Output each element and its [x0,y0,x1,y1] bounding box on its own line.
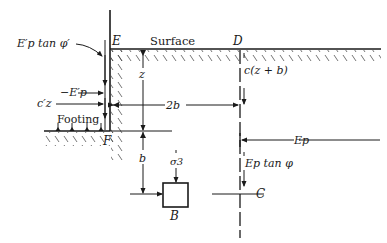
b-arrowhead-top [140,132,146,138]
label-2b: 2b [165,99,180,112]
ep-prime-tan-phi-prime-leader [76,44,102,56]
label-footing: Footing [57,113,99,126]
element-box-B [163,183,188,207]
label-ep-tan-phi: Ep tan φ [244,157,293,170]
label-neg-ep-prime: −E′p [60,86,87,99]
label-c-prime-z: c′z [37,97,52,110]
label-C: C [256,187,265,201]
label-ep: Ep [293,134,309,147]
label-E: E [111,34,121,48]
label-z: z [138,68,145,81]
label-D: D [232,34,243,48]
label-B: B [169,209,179,223]
label-sigma3: σ3 [170,156,183,167]
label-ep-prime-tan-phi-prime: E′p tan φ′ [16,37,70,50]
label-b: b [139,152,146,165]
label-surface: Surface [150,34,195,48]
label-F: F [102,134,112,148]
soil-hatching [45,50,381,162]
label-c-z-plus-b: c(z + b) [244,64,288,77]
diagram-canvas: E Surface D E′p tan φ′ −E′p c′z Footing … [0,0,387,243]
